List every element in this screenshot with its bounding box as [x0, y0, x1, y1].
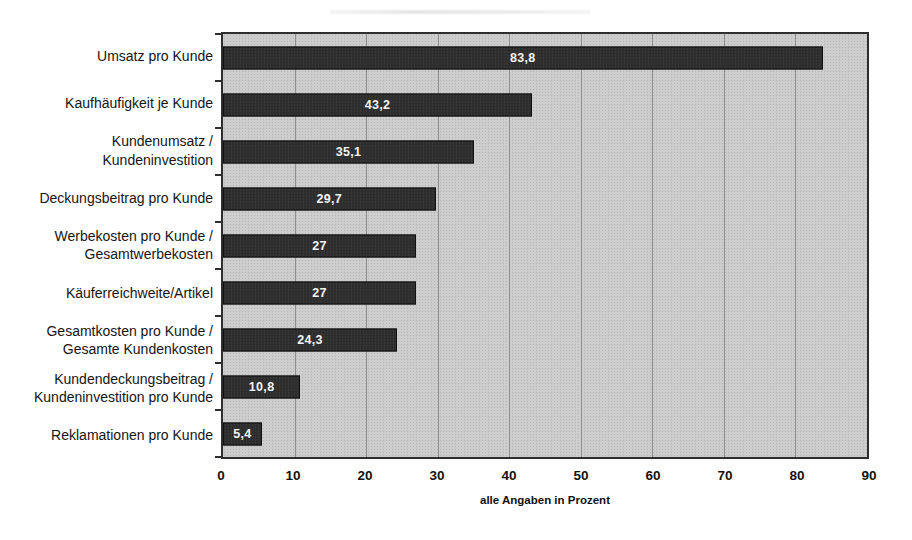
- category-label: Kundenumsatz / Kundeninvestition: [0, 127, 213, 174]
- bar-rows: 83,843,235,129,7272724,310,85,4: [223, 34, 867, 457]
- category-label: Kundendeckungsbeitrag / Kundeninvestitio…: [0, 364, 213, 411]
- bar-row: 10,8: [223, 363, 867, 410]
- y-axis-tick: [215, 80, 221, 82]
- x-tick-label: 80: [789, 468, 804, 483]
- y-axis-tick: [215, 174, 221, 176]
- bar: 5,4: [223, 422, 262, 445]
- x-tick-label: 50: [573, 468, 588, 483]
- bar: 29,7: [223, 187, 436, 210]
- bar: 35,1: [223, 140, 474, 163]
- category-label: Käuferreichweite/Artikel: [0, 269, 213, 316]
- bar-value-label: 27: [312, 286, 327, 300]
- category-label: Werbekosten pro Kunde / Gesamtwerbekoste…: [0, 222, 213, 269]
- x-tick-label: 70: [717, 468, 732, 483]
- y-axis-tick: [215, 362, 221, 364]
- bar-value-label: 10,8: [249, 380, 275, 394]
- scan-smudge: [330, 8, 590, 16]
- y-axis-tick: [215, 409, 221, 411]
- category-label: Deckungsbeitrag pro Kunde: [0, 174, 213, 221]
- bar: 10,8: [223, 375, 300, 398]
- category-label: Gesamtkosten pro Kunde / Gesamte Kundenk…: [0, 317, 213, 364]
- bar: 43,2: [223, 93, 532, 116]
- bar-row: 83,8: [223, 34, 867, 81]
- x-tick-label: 0: [217, 468, 225, 483]
- bar-row: 43,2: [223, 81, 867, 128]
- x-tick-label: 20: [357, 468, 372, 483]
- x-tick-label: 30: [429, 468, 444, 483]
- x-tick-label: 60: [645, 468, 660, 483]
- y-axis-tick: [215, 456, 221, 458]
- bar-value-label: 43,2: [365, 98, 391, 112]
- x-tick-label: 10: [285, 468, 300, 483]
- y-axis-tick: [215, 315, 221, 317]
- y-axis-tick: [215, 221, 221, 223]
- y-axis-tick: [215, 33, 221, 35]
- bar-row: 35,1: [223, 128, 867, 175]
- bar-chart: Umsatz pro KundeKaufhäufigkeit je KundeK…: [0, 0, 912, 540]
- x-tick-label: 90: [861, 468, 876, 483]
- category-label: Umsatz pro Kunde: [0, 32, 213, 79]
- bar-value-label: 29,7: [316, 192, 342, 206]
- y-axis-tick: [215, 127, 221, 129]
- bar: 24,3: [223, 328, 397, 351]
- category-labels: Umsatz pro KundeKaufhäufigkeit je KundeK…: [0, 32, 213, 459]
- x-axis-ticks: 0102030405060708090: [221, 468, 869, 486]
- bar-row: 5,4: [223, 410, 867, 457]
- category-label: Reklamationen pro Kunde: [0, 412, 213, 459]
- bar-value-label: 5,4: [233, 427, 251, 441]
- bar-value-label: 27: [312, 239, 327, 253]
- x-tick-label: 40: [501, 468, 516, 483]
- category-label: Kaufhäufigkeit je Kunde: [0, 79, 213, 126]
- bar: 83,8: [223, 46, 823, 69]
- bar: 27: [223, 234, 416, 257]
- bar-row: 27: [223, 269, 867, 316]
- bar: 27: [223, 281, 416, 304]
- bar-row: 24,3: [223, 316, 867, 363]
- bar-row: 29,7: [223, 175, 867, 222]
- bar-row: 27: [223, 222, 867, 269]
- bar-value-label: 24,3: [297, 333, 323, 347]
- bar-value-label: 35,1: [336, 145, 362, 159]
- y-axis-tick: [215, 268, 221, 270]
- bar-value-label: 83,8: [510, 51, 536, 65]
- plot-area: 83,843,235,129,7272724,310,85,4: [221, 32, 869, 459]
- x-axis-label: alle Angaben in Prozent: [221, 494, 869, 506]
